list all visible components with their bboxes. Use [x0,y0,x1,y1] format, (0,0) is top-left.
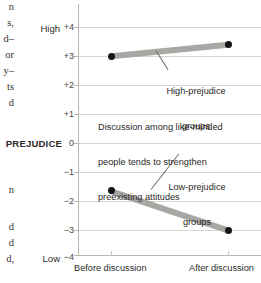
callout-high-prejudice-line1: High-prejudice [150,86,242,98]
y-tick-label: −2 [60,196,74,206]
x-tick-label-before: Before discussion [74,263,147,273]
y-tick-label: +4 [60,22,74,32]
chart-note-line1: Discussion among like-minded [98,122,258,134]
bleed-text-line: d, [6,254,14,265]
gridline-plus3 [78,56,261,57]
callout-low-prejudice-line2: groups [152,217,242,229]
bleed-text-line: or [5,50,14,61]
y-tick-label: −3 [60,225,74,235]
y-axis-high-label: High [28,23,60,34]
bleed-text-line: d [9,98,14,109]
y-tick-label: −1 [60,167,74,177]
y-tick-label: +3 [60,51,74,61]
callout-low-prejudice: Low-prejudice groups [152,159,242,240]
bleed-text-line: s, [7,18,14,29]
x-tick-mark [228,251,229,256]
bleed-text-line: ts [7,82,14,93]
bleed-text-line: y– [4,66,15,77]
data-point-high-after [225,41,232,48]
gridline-plus4 [78,27,261,28]
bleed-text-line: n [9,185,14,196]
y-axis-line [78,4,79,256]
bleed-text-line: d– [4,34,15,45]
x-tick-mark [111,251,112,256]
y-axis-low-label: Low [28,253,60,264]
data-point-high-before [108,53,115,60]
y-tick-label: 0 [60,138,74,148]
y-tick-label: +2 [60,80,74,90]
x-axis-line [78,255,261,256]
bleed-text-line: d [9,238,14,249]
y-axis-title: PREJUDICE [0,138,62,149]
bleed-text-line: n [9,2,14,13]
y-tick-label: −4 [60,252,74,262]
bleed-text-line: d [9,222,14,233]
y-tick-label: +1 [60,109,74,119]
callout-low-prejudice-line1: Low-prejudice [152,182,242,194]
x-tick-label-after: After discussion [189,263,254,273]
